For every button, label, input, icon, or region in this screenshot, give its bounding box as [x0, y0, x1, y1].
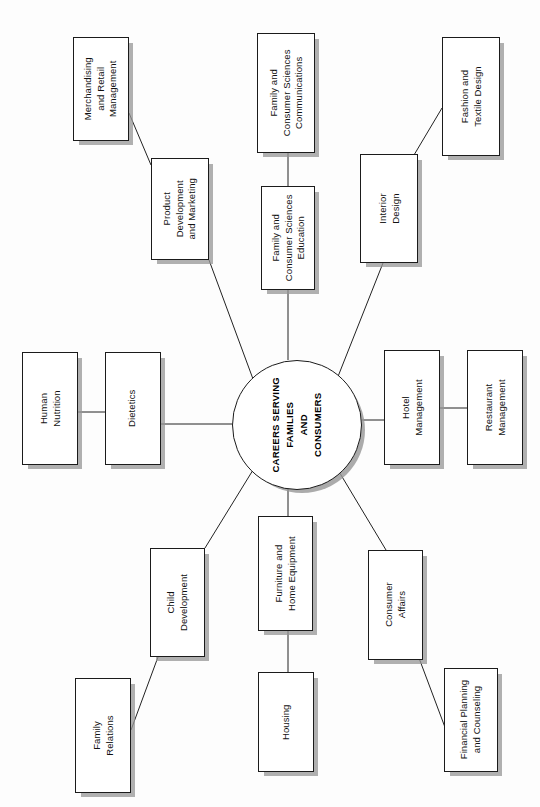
connector-child-development-to-family-relations — [131, 657, 158, 730]
node-family-relations[interactable]: FamilyRelations — [75, 678, 131, 793]
node-housing[interactable]: Housing — [258, 672, 314, 772]
diagram-canvas: CAREERS SERVINGFAMILIESANDCONSUMERS Merc… — [0, 0, 540, 807]
node-interior-design[interactable]: InteriorDesign — [360, 154, 418, 263]
hub-node-careers-serving-families-and-consumers[interactable]: CAREERS SERVINGFAMILIESANDCONSUMERS — [232, 360, 362, 490]
node-label-dietetics: Dietetics — [127, 390, 140, 427]
connector-hub-to-consumer-affairs — [338, 470, 386, 550]
node-product-development-and-marketing[interactable]: ProductDevelopmentand Marketing — [151, 158, 209, 260]
node-label-consumer-affairs: ConsumerAffairs — [383, 583, 408, 628]
node-merchandising-and-retail-management[interactable]: Merchandisingand RetailManagement — [73, 37, 129, 141]
node-label-child-development: ChildDevelopment — [165, 574, 190, 631]
node-label-financial-planning-and-counseling: Financial Planningand Counseling — [458, 680, 483, 759]
connector-hub-to-interior-design — [337, 263, 383, 379]
connector-hub-to-product-development-and-marketing — [209, 260, 253, 379]
node-label-hotel-management: HotelManagement — [399, 379, 424, 435]
node-label-human-nutrition: HumanNutrition — [37, 390, 62, 426]
node-label-housing: Housing — [280, 704, 293, 740]
node-label-furniture-and-home-equipment: Furniture andHome Equipment — [273, 536, 298, 611]
node-child-development[interactable]: ChildDevelopment — [150, 548, 205, 657]
node-fashion-and-textile-design[interactable]: Fashion andTextile Design — [442, 37, 500, 156]
node-label-fashion-and-textile-design: Fashion andTextile Design — [458, 66, 483, 127]
node-label-interior-design: InteriorDesign — [376, 193, 401, 223]
node-label-restaurant-management: RestaurantManagement — [482, 379, 507, 435]
connector-hub-to-child-development — [205, 470, 253, 548]
node-label-family-and-consumer-sciences-communications: Family andConsumer SciencesCommunication… — [267, 50, 305, 137]
connector-interior-design-to-fashion-and-textile-design — [414, 108, 442, 155]
node-family-and-consumer-sciences-communications[interactable]: Family andConsumer SciencesCommunication… — [257, 33, 315, 153]
node-financial-planning-and-counseling[interactable]: Financial Planningand Counseling — [444, 668, 498, 772]
node-family-and-consumer-sciences-education[interactable]: Family andConsumer SciencesEducation — [261, 186, 315, 290]
node-dietetics[interactable]: Dietetics — [105, 352, 161, 465]
node-furniture-and-home-equipment[interactable]: Furniture andHome Equipment — [258, 516, 313, 631]
node-label-family-relations: FamilyRelations — [90, 715, 115, 756]
node-hotel-management[interactable]: HotelManagement — [384, 350, 440, 465]
node-label-product-development-and-marketing: ProductDevelopmentand Marketing — [161, 178, 199, 240]
node-consumer-affairs[interactable]: ConsumerAffairs — [368, 550, 423, 660]
node-label-merchandising-and-retail-management: Merchandisingand RetailManagement — [82, 57, 120, 120]
node-restaurant-management[interactable]: RestaurantManagement — [467, 350, 523, 465]
connector-product-development-and-marketing-to-merchandising-and-retail-management — [129, 113, 151, 165]
node-human-nutrition[interactable]: HumanNutrition — [22, 352, 78, 465]
connector-consumer-affairs-to-financial-planning-and-counseling — [419, 658, 446, 730]
node-label-family-and-consumer-sciences-education: Family andConsumer SciencesEducation — [269, 195, 307, 282]
hub-label: CAREERS SERVINGFAMILIESANDCONSUMERS — [269, 377, 325, 473]
